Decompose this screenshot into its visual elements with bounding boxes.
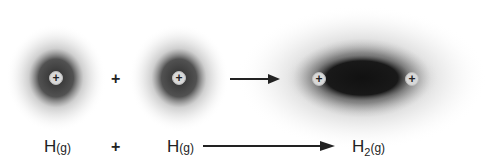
electron-clouds bbox=[0, 0, 494, 164]
element-symbol: H bbox=[352, 137, 364, 156]
reactant1-label: H(g) bbox=[44, 138, 71, 155]
plus-sign-top: + bbox=[111, 71, 120, 87]
state-label: (g) bbox=[370, 141, 385, 155]
nucleus-atom2: + bbox=[172, 71, 186, 85]
positive-charge-icon: + bbox=[52, 72, 59, 84]
state-label: (g) bbox=[179, 141, 194, 155]
state-label: (g) bbox=[56, 141, 71, 155]
positive-charge-icon: + bbox=[175, 72, 182, 84]
reactant2-label: H(g) bbox=[167, 138, 194, 155]
nucleus-molecule-left: + bbox=[312, 72, 326, 86]
element-symbol: H bbox=[167, 137, 179, 156]
plus-sign-bottom: + bbox=[111, 139, 120, 155]
nucleus-atom1: + bbox=[49, 71, 63, 85]
positive-charge-icon: + bbox=[315, 73, 322, 85]
element-symbol: H bbox=[44, 137, 56, 156]
nucleus-molecule-right: + bbox=[405, 72, 419, 86]
product-label: H2(g) bbox=[352, 138, 385, 158]
positive-charge-icon: + bbox=[408, 73, 415, 85]
